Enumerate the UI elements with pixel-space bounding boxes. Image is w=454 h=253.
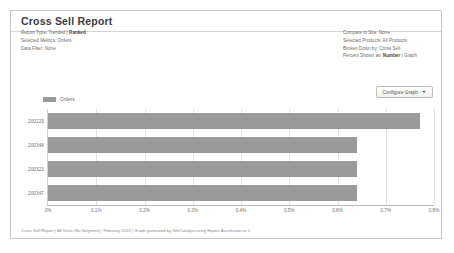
x-axis-tick-label: 0.2%	[139, 208, 149, 213]
bar-row: 200229	[48, 113, 434, 129]
bar-row: 200323	[48, 161, 434, 177]
x-axis-tick-label: 0.6%	[332, 208, 342, 213]
bar-row: 200347	[48, 185, 434, 201]
meta-left-line-1: Selected Metrics: Orders	[21, 37, 86, 45]
meta-right-line-3: Percent Shown as: Number | Graph	[343, 52, 417, 60]
y-axis-category-label: 200323	[28, 167, 44, 172]
bar-orders[interactable]	[48, 161, 357, 177]
x-axis-tick-label: 0.5%	[284, 208, 294, 213]
meta-left-line-0: Report Type: Trended | Ranked	[21, 29, 86, 37]
bar-row: 200348	[48, 137, 434, 153]
chart-legend: Orders	[43, 97, 75, 102]
y-axis-category-label: 200347	[28, 191, 44, 196]
bar-orders[interactable]	[48, 185, 357, 201]
plot-area: 0%0.1%0.2%0.3%0.4%0.5%0.6%0.7%0.8%200229…	[47, 109, 434, 206]
legend-label-orders: Orders	[60, 97, 75, 102]
chart-footer-note: Cross Sell Report | All Visits (No Segme…	[21, 228, 433, 233]
x-axis-tick-label: 0.8%	[429, 208, 439, 213]
legend-swatch-orders	[43, 97, 56, 102]
cross-sell-bar-chart: Orders 0%0.1%0.2%0.3%0.4%0.5%0.6%0.7%0.8…	[11, 91, 441, 223]
x-axis-tick-label: 0.1%	[91, 208, 101, 213]
bar-orders[interactable]	[48, 137, 357, 153]
x-axis-tick-label: 0%	[45, 208, 52, 213]
page-title: Cross Sell Report	[21, 15, 113, 27]
bar-orders[interactable]	[48, 113, 420, 129]
y-axis-category-label: 200348	[28, 143, 44, 148]
gridline	[434, 109, 435, 205]
y-axis-category-label: 200229	[28, 119, 44, 124]
meta-right-line-0: Compare to Site: None	[343, 29, 417, 37]
meta-right-line-1: Selected Products: All Products	[343, 37, 417, 45]
report-meta-right: Compare to Site: NoneSelected Products: …	[343, 29, 417, 60]
x-axis-tick-label: 0.7%	[381, 208, 391, 213]
x-axis-tick-label: 0.4%	[236, 208, 246, 213]
report-meta-left: Report Type: Trended | RankedSelected Me…	[21, 29, 86, 52]
cross-sell-report-panel: Cross Sell Report Report Type: Trended |…	[10, 10, 442, 239]
x-axis-tick-label: 0.3%	[188, 208, 198, 213]
meta-right-line-2: Broken Down by: Cross Sell	[343, 45, 417, 53]
meta-left-line-2: Data Filter: None	[21, 45, 86, 53]
